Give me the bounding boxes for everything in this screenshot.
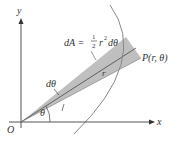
r-label: r [102, 68, 106, 78]
area-sector [21, 37, 141, 122]
polar-area-diagram: y x O θ dθ r P(r, θ) dA = 1 2 r 2 dθ [0, 0, 182, 142]
y-axis-arrow-icon [19, 18, 24, 24]
formula-denominator: 2 [92, 42, 96, 50]
theta-label: θ [40, 107, 45, 118]
formula-pointer [91, 51, 96, 60]
formula-exponent: 2 [104, 35, 107, 41]
x-axis-arrow-icon [149, 120, 155, 125]
formula-lhs: dA = [64, 37, 84, 48]
formula-numerator: 1 [92, 33, 96, 41]
lower-ray [21, 58, 141, 122]
formula-dtheta: dθ [108, 37, 118, 48]
sector-arrow-icon [62, 104, 64, 111]
point-label: P(r, θ) [141, 52, 168, 64]
radius-ray [21, 48, 136, 122]
y-axis-label: y [16, 5, 22, 16]
dtheta-label: dθ [46, 78, 56, 89]
origin-label: O [7, 124, 14, 135]
formula-r: r [99, 37, 103, 48]
x-axis-label: x [156, 116, 162, 127]
